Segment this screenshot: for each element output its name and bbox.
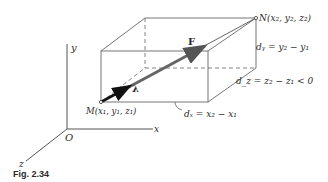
point-n-marker <box>254 16 257 19</box>
figure-canvas: y x z O M(x₁, y₁, z₁) N(x₂, y₂, z₂) F λ … <box>0 0 328 182</box>
origin-label: O <box>65 132 73 143</box>
unit-vector <box>101 86 130 102</box>
unit-vector-label: λ <box>132 83 139 94</box>
figure-caption: Fig. 2.34 <box>13 169 49 179</box>
point-m-marker <box>99 100 102 103</box>
z-axis-label: z <box>18 159 24 169</box>
dimension-leaders <box>175 102 182 110</box>
coordinate-axes <box>26 44 153 161</box>
point-m-label: M(x₁, y₁, z₁) <box>85 106 136 116</box>
z-axis <box>26 129 67 161</box>
dx-label: dₓ = x₂ − x₁ <box>184 109 237 119</box>
x-axis-label: x <box>154 124 159 134</box>
y-axis-label: y <box>70 42 77 53</box>
dz-label: d_z = z₂ − z₁ < 0 <box>236 76 313 87</box>
dy-label: dᵧ = y₂ − y₁ <box>256 42 309 52</box>
force-label: F <box>188 36 195 47</box>
point-n-label: N(x₂, y₂, z₂) <box>258 13 312 23</box>
